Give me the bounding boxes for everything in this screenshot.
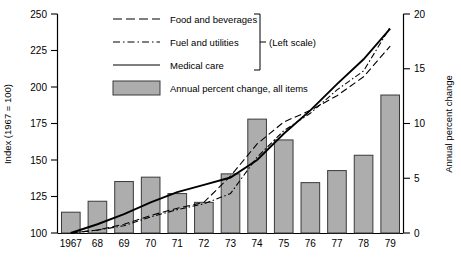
y2-axis-title: Annual percent change <box>443 75 454 173</box>
y-tick-label: 150 <box>30 155 47 166</box>
x-tick-label: 75 <box>278 238 290 249</box>
y-tick-label: 225 <box>30 45 47 56</box>
y-tick-label: 250 <box>30 9 47 20</box>
legend-label-annual-change: Annual percent change, all items <box>170 83 308 94</box>
x-tick-label: 78 <box>358 238 370 249</box>
legend-bracket-note: (Left scale) <box>269 37 316 48</box>
y2-tick-label: 10 <box>414 118 426 129</box>
bar <box>195 202 214 233</box>
y-tick-label: 100 <box>30 228 47 239</box>
x-tick-label: 79 <box>385 238 397 249</box>
legend-label-medical: Medical care <box>170 60 224 71</box>
x-tick-label: 74 <box>252 238 264 249</box>
bar <box>168 194 187 233</box>
x-tick-label: 70 <box>145 238 157 249</box>
y2-tick-label: 20 <box>414 9 426 20</box>
y2-tick-label: 15 <box>414 63 426 74</box>
x-tick-label: 72 <box>198 238 210 249</box>
legend-swatch-bar <box>113 81 160 95</box>
x-tick-label: 69 <box>118 238 130 249</box>
y-axis-title: Index (1967 = 100) <box>2 84 13 164</box>
bar <box>301 183 320 233</box>
legend-item-annual-change: Annual percent change, all items <box>113 81 308 95</box>
bar <box>248 119 267 233</box>
y2-tick-label: 0 <box>414 228 420 239</box>
x-tick-label: 77 <box>331 238 343 249</box>
x-tick-label: 68 <box>92 238 104 249</box>
x-tick-label: 73 <box>225 238 237 249</box>
y-tick-label: 125 <box>30 191 47 202</box>
y2-tick-label: 5 <box>414 173 420 184</box>
bar <box>381 95 400 233</box>
x-tick-label: 76 <box>305 238 317 249</box>
bar <box>328 171 347 233</box>
bar <box>221 174 240 233</box>
combo-chart: Index (1967 = 100) Annual percent change… <box>0 0 461 265</box>
bar <box>354 155 373 233</box>
chart-root: Index (1967 = 100) Annual percent change… <box>0 0 461 265</box>
x-tick-label: 1967 <box>60 238 83 249</box>
y-tick-label: 175 <box>30 118 47 129</box>
legend-label-food: Food and beverages <box>170 14 257 25</box>
bar <box>274 140 293 233</box>
x-tick-label: 71 <box>172 238 184 249</box>
y-tick-label: 200 <box>30 82 47 93</box>
legend-label-fuel: Fuel and utilities <box>170 37 239 48</box>
